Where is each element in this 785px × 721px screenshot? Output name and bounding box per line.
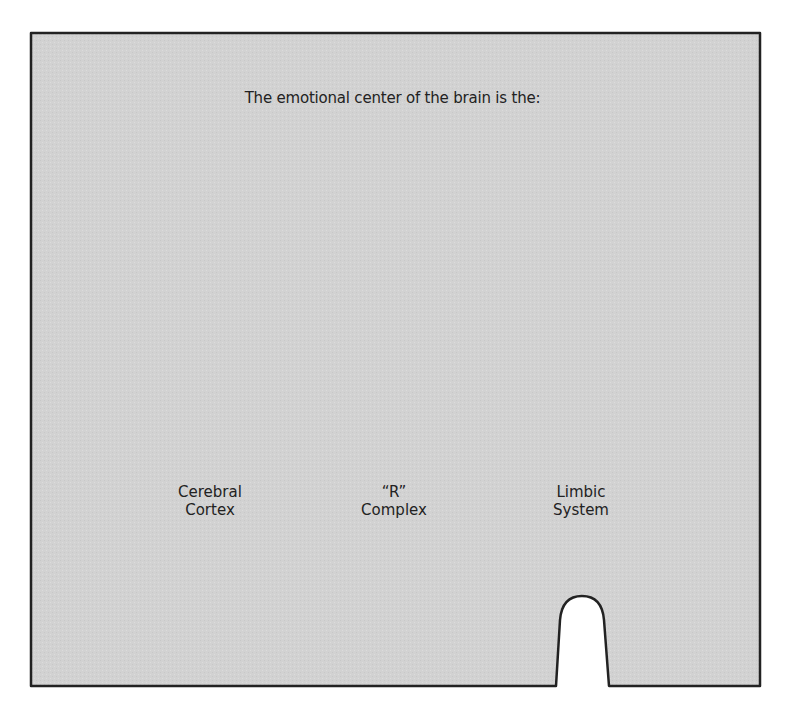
option-label-line1: “R” <box>324 483 464 501</box>
option-label-line1: Cerebral <box>140 483 280 501</box>
option-label-line2: Cortex <box>140 501 280 519</box>
option-label-line2: System <box>511 501 651 519</box>
option-cerebral-cortex[interactable]: Cerebral Cortex <box>140 483 280 519</box>
option-limbic-system[interactable]: Limbic System <box>511 483 651 519</box>
option-r-complex[interactable]: “R” Complex <box>324 483 464 519</box>
option-label-line2: Complex <box>324 501 464 519</box>
question-text: The emotional center of the brain is the… <box>0 89 785 107</box>
card-shape <box>0 0 785 721</box>
option-label-line1: Limbic <box>511 483 651 501</box>
question-card: The emotional center of the brain is the… <box>0 0 785 721</box>
